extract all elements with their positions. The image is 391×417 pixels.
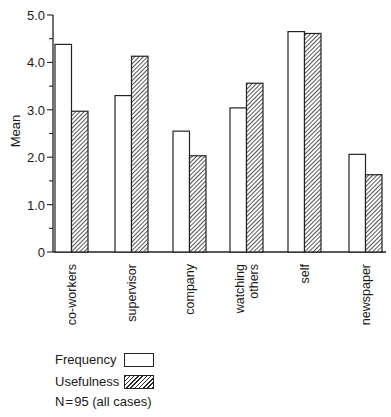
x-category-label: watching [233,264,247,314]
y-tick-label: 2.0 [27,150,45,165]
y-axis-label: Mean [8,115,23,148]
legend-label-frequency: Frequency [55,352,116,367]
y-tick-label: 1.0 [27,198,45,213]
bar-usefulness-watching-others [247,83,264,252]
y-tick-label: 4.0 [27,55,45,70]
x-category-label: others [247,264,261,299]
bar-frequency-newspaper [349,154,366,252]
bar-usefulness-newspaper [366,175,383,252]
x-category-label: newspaper [359,264,373,325]
legend-swatch-frequency [124,353,154,367]
x-category-label: supervisor [125,264,139,322]
bar-frequency-co-workers [55,44,72,252]
sample-size-note: N = 95 (all cases) [55,392,151,412]
bar-frequency-watching-others [230,108,247,252]
y-tick-label: 3.0 [27,103,45,118]
x-axis-labels: co-workerssupervisorcompanywatchingother… [65,263,373,325]
legend-label-usefulness: Usefulness [55,374,119,389]
bar-frequency-self [288,32,305,252]
legend-item-usefulness: Usefulness [55,372,151,392]
legend-item-frequency: Frequency [55,350,151,370]
legend: Frequency Usefulness N = 95 (all cases) [55,350,151,412]
x-category-label: co-workers [65,264,79,325]
x-category-label: company [183,263,197,314]
bar-frequency-supervisor [115,96,132,252]
bars [55,32,382,252]
bar-usefulness-self [305,33,322,252]
bar-chart: 01.02.03.04.05.0 co-workerssupervisorcom… [0,0,391,345]
bar-usefulness-supervisor [132,56,149,252]
x-category-label: self [298,263,312,283]
bar-usefulness-company [190,156,207,252]
bar-usefulness-co-workers [72,111,89,252]
bar-frequency-company [173,131,190,252]
legend-swatch-usefulness [124,375,154,389]
y-tick-label: 5.0 [27,8,45,23]
y-tick-label: 0 [38,245,45,260]
